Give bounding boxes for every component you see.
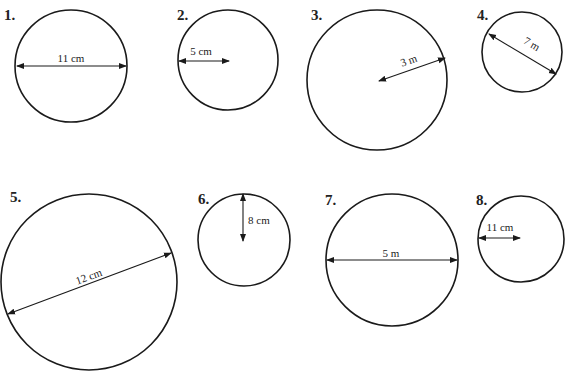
circle-7-number: 7.: [325, 192, 337, 208]
circle-6-label: 8 cm: [248, 214, 270, 226]
circle-6-shape: [198, 194, 290, 286]
circle-8-shape: [478, 196, 564, 282]
circle-4-label: 7 m: [522, 34, 543, 53]
circle-1-number: 1.: [4, 7, 16, 23]
circle-3-shape: [307, 10, 447, 150]
circle-2-number: 2.: [177, 7, 189, 23]
circle-5-number: 5.: [10, 189, 22, 205]
circle-8-label: 11 cm: [487, 221, 514, 233]
circle-4-shape: [482, 12, 562, 92]
circle-6: 6. 8 cm: [198, 191, 290, 286]
circle-8: 8. 11 cm: [476, 192, 564, 282]
circle-2-shape: [178, 10, 278, 110]
circles-diagram: 1. 11 cm 2. 5 cm 3. 3 m 4. 7 m 5. 12 cm …: [0, 0, 571, 380]
circle-1: 1. 11 cm: [4, 7, 127, 122]
circle-3-label: 3 m: [399, 52, 419, 69]
circle-8-number: 8.: [476, 192, 488, 208]
circle-6-number: 6.: [198, 191, 210, 207]
circle-5: 5. 12 cm: [1, 189, 177, 370]
circle-4: 4. 7 m: [477, 7, 562, 92]
circle-4-number: 4.: [477, 7, 489, 23]
circle-3-number: 3.: [311, 7, 323, 23]
circle-7: 7. 5 m: [325, 192, 458, 326]
circle-7-label: 5 m: [383, 247, 400, 259]
circle-5-diameter-arrow: [8, 253, 171, 314]
circle-2-label: 5 cm: [190, 45, 212, 57]
circle-4-diameter-arrow: [489, 34, 556, 74]
circle-1-label: 11 cm: [58, 52, 85, 64]
circle-3: 3. 3 m: [307, 7, 447, 150]
circle-2: 2. 5 cm: [177, 7, 278, 110]
